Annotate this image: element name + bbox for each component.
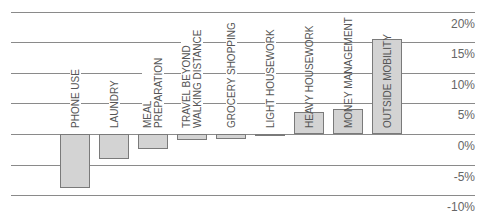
y-tick-label: 5% (458, 108, 475, 122)
category-label: PHONE USE (70, 67, 81, 130)
y-tick-label: -10% (447, 200, 475, 214)
bar (60, 134, 90, 188)
bar (138, 134, 168, 149)
category-label: GROCERY SHOPPING (226, 20, 237, 130)
y-tick-label: 0% (458, 139, 475, 153)
y-tick-label: 10% (451, 78, 475, 92)
category-label: LAUNDRY (109, 78, 120, 130)
bar (216, 134, 246, 139)
bar (99, 134, 129, 159)
gridline (11, 42, 475, 43)
category-label: TRAVEL BEYOND WALKING DISTANCE (181, 28, 203, 130)
y-tick-label: 15% (451, 47, 475, 61)
category-label: MEAL PREPARATION (142, 56, 164, 130)
category-label: OUTSIDE MOBILITY (382, 32, 393, 130)
category-label: MONEY MANAGEMENT (343, 15, 354, 130)
y-tick-label: -5% (454, 170, 475, 184)
gridline (11, 195, 475, 196)
gridline (11, 12, 475, 13)
y-tick-label: 20% (451, 17, 475, 31)
bar (255, 134, 285, 136)
category-label: HEAVY HOUSEWORK (304, 24, 315, 130)
bar (177, 134, 207, 140)
bar-chart: 20%15%10%5%0%-5%-10%PHONE USELAUNDRYMEAL… (0, 0, 483, 218)
category-label: LIGHT HOUSEWORK (265, 27, 276, 130)
